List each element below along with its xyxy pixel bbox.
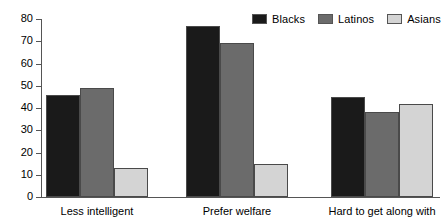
bar-blacks-2 bbox=[331, 97, 365, 197]
bar-blacks-1 bbox=[186, 26, 220, 197]
y-axis-tick: 0 bbox=[0, 197, 41, 198]
y-axis-tick-label: 70 bbox=[21, 34, 33, 47]
bar-asians-1 bbox=[254, 164, 288, 197]
y-axis-tick-mark bbox=[36, 19, 41, 20]
y-axis-tick-label: 30 bbox=[21, 123, 33, 136]
y-axis-tick: 30 bbox=[0, 130, 41, 131]
y-axis-tick-mark bbox=[36, 175, 41, 176]
y-axis-tick: 40 bbox=[0, 108, 41, 109]
y-axis-tick-label: 40 bbox=[21, 101, 33, 114]
y-axis-tick-label: 80 bbox=[21, 12, 33, 25]
x-axis-line bbox=[41, 197, 440, 198]
y-axis-tick-mark bbox=[36, 64, 41, 65]
y-axis-tick-label: 60 bbox=[21, 57, 33, 70]
y-axis-tick-mark bbox=[36, 86, 41, 87]
y-axis-tick-label: 0 bbox=[27, 190, 33, 203]
y-axis-tick-mark bbox=[36, 130, 41, 131]
y-axis-tick: 70 bbox=[0, 41, 41, 42]
plot-area bbox=[41, 19, 439, 197]
y-axis-tick-mark bbox=[36, 153, 41, 154]
bar-blacks-0 bbox=[46, 95, 80, 197]
y-axis-tick: 10 bbox=[0, 175, 41, 176]
bar-latinos-1 bbox=[220, 43, 254, 197]
bar-asians-2 bbox=[399, 104, 433, 197]
y-axis-tick: 80 bbox=[0, 19, 41, 20]
y-axis-tick: 60 bbox=[0, 64, 41, 65]
y-axis-tick-label: 10 bbox=[21, 168, 33, 181]
bar-group bbox=[186, 19, 288, 197]
bar-group bbox=[331, 19, 433, 197]
y-axis-tick-label: 20 bbox=[21, 146, 33, 159]
x-axis-category-label: Less intelligent bbox=[22, 205, 172, 218]
x-axis-category-label: Prefer welfare bbox=[162, 205, 312, 218]
bar-chart: BlacksLatinosAsians 01020304050607080Les… bbox=[0, 0, 444, 224]
y-axis-tick-mark bbox=[36, 197, 41, 198]
bar-group bbox=[46, 19, 148, 197]
y-axis-tick: 50 bbox=[0, 86, 41, 87]
x-axis-category-label: Hard to get along with bbox=[307, 205, 444, 218]
y-axis-tick-mark bbox=[36, 41, 41, 42]
y-axis-tick-mark bbox=[36, 108, 41, 109]
y-axis-tick: 20 bbox=[0, 153, 41, 154]
bar-latinos-2 bbox=[365, 112, 399, 197]
bar-asians-0 bbox=[114, 168, 148, 197]
bar-latinos-0 bbox=[80, 88, 114, 197]
y-axis-tick-label: 50 bbox=[21, 79, 33, 92]
